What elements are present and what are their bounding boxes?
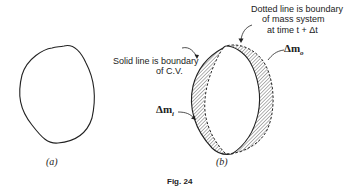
solid-line-annotation-line2: of C.V. xyxy=(156,66,183,76)
control-volume-outline-a xyxy=(20,46,95,143)
leader-delta-m-i xyxy=(178,112,194,118)
panel-b-label: (b) xyxy=(216,157,228,167)
dotted-line-annotation-line3: at time t + Δt xyxy=(267,25,318,35)
delta-m-i-symbol: Δm xyxy=(156,103,172,115)
dotted-line-annotation-line1: Dotted line is boundary xyxy=(251,4,343,14)
leader-dotted-line xyxy=(241,25,252,40)
delta-m-o-symbol: Δm xyxy=(284,42,300,54)
panel-a-label: (a) xyxy=(46,157,58,167)
delta-m-i-subscript: i xyxy=(172,110,174,118)
figure-caption: Fig. 24 xyxy=(167,177,192,187)
delta-m-o-subscript: o xyxy=(300,49,304,57)
delta-m-i-label: Δmi xyxy=(156,104,174,119)
solid-line-annotation-line1: Solid line is boundary xyxy=(113,56,199,66)
leader-delta-m-o xyxy=(268,50,284,60)
dotted-line-annotation-line2: of mass system xyxy=(262,14,325,24)
delta-m-o-label: Δmo xyxy=(284,43,304,58)
